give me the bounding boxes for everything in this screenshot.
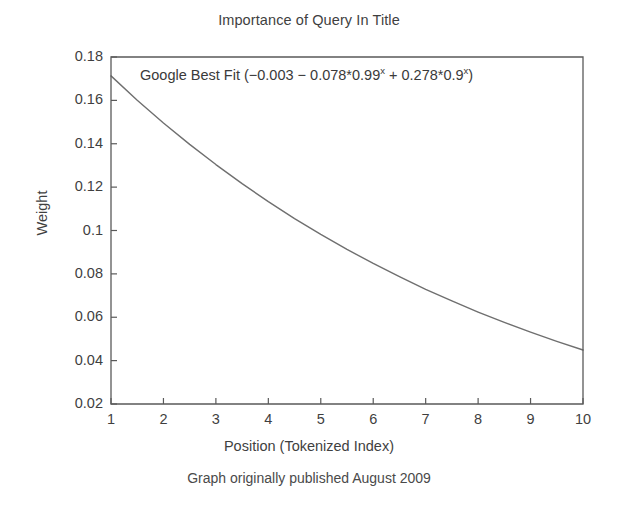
figure-caption: Graph originally published August 2009: [0, 470, 618, 486]
x-tick-label: 2: [143, 411, 183, 427]
x-tick-label: 6: [353, 411, 393, 427]
y-tick-label: 0.14: [45, 135, 103, 151]
x-tick-label: 7: [406, 411, 446, 427]
axes-frame: [111, 57, 583, 404]
x-tick-label: 9: [511, 411, 551, 427]
y-tick-label: 0.16: [45, 91, 103, 107]
x-tick-label: 4: [248, 411, 288, 427]
chart-figure: Importance of Query In Title Weight Goog…: [0, 0, 618, 514]
x-tick-label: 10: [563, 411, 603, 427]
x-tick-label: 1: [91, 411, 131, 427]
y-tick-label: 0.1: [45, 222, 103, 238]
best-fit-line: [111, 76, 583, 350]
y-tick-label: 0.18: [45, 48, 103, 64]
y-tick-label: 0.04: [45, 352, 103, 368]
x-tick-label: 5: [301, 411, 341, 427]
x-tick-label: 8: [458, 411, 498, 427]
y-tick-label: 0.02: [45, 395, 103, 411]
x-axis-label: Position (Tokenized Index): [0, 438, 618, 454]
y-tick-label: 0.08: [45, 265, 103, 281]
y-tick-label: 0.06: [45, 308, 103, 324]
x-tick-label: 3: [196, 411, 236, 427]
axis-ticks: [111, 57, 583, 404]
y-tick-label: 0.12: [45, 178, 103, 194]
plot-area: [0, 0, 618, 514]
